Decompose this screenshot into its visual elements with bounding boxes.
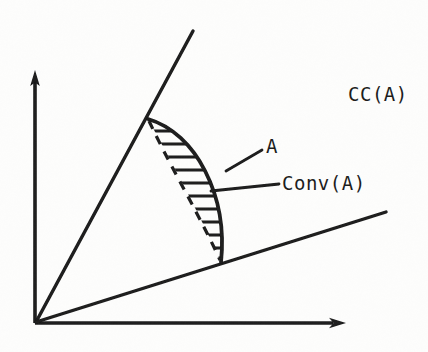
set-a-leader-line <box>226 150 262 171</box>
cone-label-cc-a: CC(A) <box>348 83 408 105</box>
convex-cone-figure: CC(A) A Conv(A) <box>0 0 428 352</box>
cone-lower-ray <box>36 212 386 322</box>
conv-a-leader-line <box>211 184 279 191</box>
diagram-canvas: CC(A) A Conv(A) <box>0 0 428 352</box>
set-label-a: A <box>266 135 278 157</box>
hull-label-conv-a: Conv(A) <box>282 172 366 194</box>
